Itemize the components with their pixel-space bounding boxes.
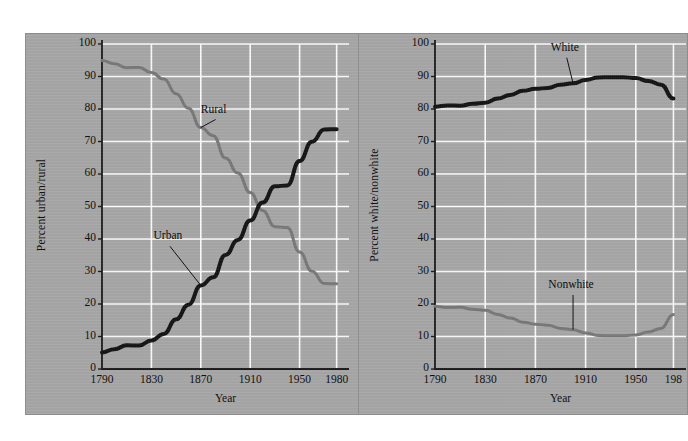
x-tick-label: 198 <box>643 373 688 385</box>
y-tick-label: 60 <box>58 166 96 178</box>
y-tick-label: 0 <box>391 361 429 373</box>
axis-spines <box>102 40 349 369</box>
plot-area-white-nonwhite <box>359 34 688 416</box>
x-axis-title: Year <box>196 392 256 404</box>
series-label-nonwhite: Nonwhite <box>548 278 593 290</box>
figure-canvas: RuralUrban010203040506070809010017901830… <box>0 0 688 441</box>
y-tick-label: 100 <box>58 36 96 48</box>
chart-panel-white-nonwhite: WhiteNonwhite010203040506070809010017901… <box>358 33 688 415</box>
series-line-rural <box>102 61 337 284</box>
y-tick-label: 70 <box>58 134 96 146</box>
y-tick-label: 30 <box>391 264 429 276</box>
y-tick-label: 0 <box>58 361 96 373</box>
plot-area-urban-rural <box>26 34 365 416</box>
series-line-nonwhite <box>435 306 673 336</box>
y-tick-label: 10 <box>58 329 96 341</box>
y-tick-label: 70 <box>391 134 429 146</box>
y-tick-label: 60 <box>391 166 429 178</box>
y-tick-label: 80 <box>391 101 429 113</box>
axis-spines <box>435 40 686 369</box>
series-label-rural: Rural <box>201 103 227 115</box>
y-tick-label: 90 <box>391 69 429 81</box>
y-axis-title: Percent white/nonwhite <box>367 42 379 367</box>
annotation-leader-rural <box>201 120 216 128</box>
y-axis-title: Percent urban/rural <box>34 42 46 367</box>
series-line-white <box>435 77 673 107</box>
y-tick-label: 100 <box>391 36 429 48</box>
y-tick-label: 20 <box>58 296 96 308</box>
y-tick-label: 50 <box>391 199 429 211</box>
y-tick-label: 20 <box>391 296 429 308</box>
annotation-leader-white <box>567 58 573 84</box>
chart-panel-urban-rural: RuralUrban010203040506070809010017901830… <box>25 33 364 415</box>
y-tick-label: 40 <box>391 231 429 243</box>
annotation-leader-urban <box>170 246 201 285</box>
x-axis-title: Year <box>531 392 591 404</box>
y-tick-label: 40 <box>58 231 96 243</box>
y-tick-label: 50 <box>58 199 96 211</box>
y-tick-label: 90 <box>58 69 96 81</box>
y-tick-label: 80 <box>58 101 96 113</box>
y-tick-label: 30 <box>58 264 96 276</box>
series-label-urban: Urban <box>154 229 183 241</box>
series-label-white: White <box>551 41 579 53</box>
y-tick-label: 10 <box>391 329 429 341</box>
series-line-urban <box>102 129 337 352</box>
